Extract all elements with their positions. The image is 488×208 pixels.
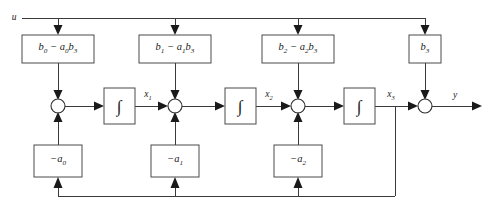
input-signal-label: u <box>12 13 17 23</box>
sum-junction-3 <box>291 99 305 113</box>
input-bus <box>22 18 430 35</box>
feedback-gain-to-sum-wires <box>54 112 303 145</box>
block-b3-label: b3 <box>421 42 430 55</box>
integrator-3-symbol: ∫ <box>357 98 362 115</box>
state-label-x1: x1 <box>144 90 151 101</box>
sum-junction-4 <box>418 99 432 113</box>
state-label-x3: x3 <box>387 90 394 101</box>
sum-junction-2 <box>168 99 182 113</box>
block-a0-label: −a0 <box>50 154 66 167</box>
integrator-2-symbol: ∫ <box>238 98 243 115</box>
sum-junction-1 <box>51 99 65 113</box>
state-label-x2: x2 <box>265 90 272 101</box>
block-a1-label: −a1 <box>167 154 183 167</box>
output-signal-label: y <box>453 91 457 101</box>
block-a2-label: −a2 <box>290 154 306 167</box>
integrator-1-symbol: ∫ <box>117 98 122 115</box>
block-b2-label: b2 − a2b3 <box>279 42 318 55</box>
diagram-svg <box>0 0 488 208</box>
block-b1-label: b1 − a1b3 <box>156 42 195 55</box>
block-diagram-canvas: u y b0 − a0b3 b1 − a1b3 b2 − a2b3 b3 −a0… <box>0 0 488 208</box>
block-b0-label: b0 − a0b3 <box>39 42 78 55</box>
